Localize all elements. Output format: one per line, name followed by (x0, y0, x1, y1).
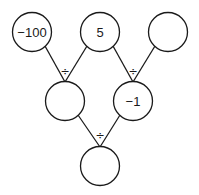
node-bottom (81, 147, 120, 186)
node-top-middle-value: 5 (96, 25, 103, 40)
node-top-left-value: −100 (17, 25, 46, 40)
division-pyramid-diagram: −100 5 −1 ÷ ÷ ÷ (0, 0, 199, 195)
divide-icon: ÷ (95, 129, 104, 142)
divide-icon: ÷ (128, 65, 137, 78)
node-top-right (149, 13, 188, 52)
node-middle-left (46, 82, 85, 121)
node-middle-right-value: −1 (126, 94, 141, 109)
divide-icon: ÷ (60, 65, 69, 78)
